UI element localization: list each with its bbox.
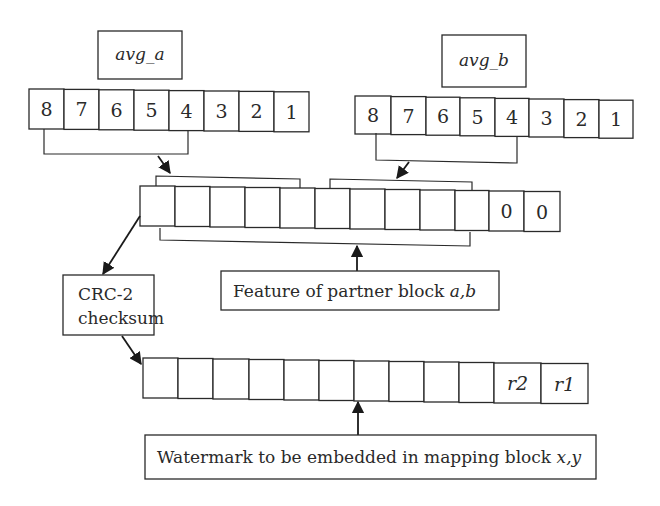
bit-cell <box>210 187 245 227</box>
bit-cell <box>420 190 455 230</box>
avg-b-box: avg_b <box>442 35 526 87</box>
feature-label-box: Feature of partner block a,b <box>221 271 499 310</box>
bit-cell <box>284 360 319 400</box>
bit-cell: 3 <box>204 91 239 131</box>
crc-line2: checksum <box>78 308 164 328</box>
bit-cell: 2 <box>239 91 274 131</box>
bit-cell-value: 7 <box>75 98 87 120</box>
bit-cell-value: 3 <box>215 100 227 122</box>
bit-cell: 4 <box>495 98 529 136</box>
arrow-crc-to-watermark <box>122 336 141 364</box>
bit-cell: 2 <box>564 100 599 138</box>
feature-label-text: Feature of partner block <box>233 281 450 301</box>
watermark-label-text: Watermark to be embedded in mapping bloc… <box>157 447 557 467</box>
crc-checksum-box: CRC-2 checksum <box>63 275 164 335</box>
bit-cell <box>175 187 210 227</box>
bit-cell: 1 <box>274 92 309 132</box>
bit-cell <box>354 361 389 401</box>
arrow-feature-to-crc <box>103 216 140 274</box>
bit-cell <box>249 360 284 400</box>
bit-cell <box>455 191 489 231</box>
avg-b-bit-row: 87654321 <box>355 96 633 138</box>
bit-cell-value: 3 <box>540 107 552 129</box>
crc-line1: CRC-2 <box>78 284 133 304</box>
arrow-b-to-feature <box>397 162 409 178</box>
bit-cell <box>424 362 459 402</box>
bit-cell <box>319 361 354 401</box>
bit-cell: 0 <box>489 191 524 231</box>
bit-cell: 6 <box>426 97 460 135</box>
bit-cell: r1 <box>541 364 588 404</box>
bit-cell-value: 6 <box>110 99 122 121</box>
bit-cell: 8 <box>355 96 391 134</box>
bit-cell-value: 8 <box>40 98 52 120</box>
bit-cell <box>459 363 494 403</box>
arrow-a-to-feature <box>158 156 170 173</box>
bit-cell-value: 5 <box>145 99 157 121</box>
bit-cell: 0 <box>524 192 560 232</box>
avg-a-bit-row: 87654321 <box>29 89 309 132</box>
avg-b-label: avg_b <box>459 50 509 70</box>
bit-cell: 5 <box>460 98 495 136</box>
bit-cell-value: 2 <box>250 100 262 122</box>
bit-cell: 7 <box>391 97 426 135</box>
bit-cell-value: 1 <box>610 108 622 130</box>
bit-cell-value: r1 <box>554 373 575 395</box>
bit-cell <box>315 189 350 229</box>
diagram-canvas: avg_a avg_b 87654321 87654321 00 Feature… <box>0 0 660 506</box>
bit-cell: 4 <box>169 91 204 131</box>
bit-cell <box>385 190 420 230</box>
avg-a-box: avg_a <box>98 31 182 79</box>
watermark-label-vars: x,y <box>557 447 582 467</box>
bit-cell-value: 4 <box>180 100 192 122</box>
bit-cell-value: 8 <box>367 104 379 126</box>
feature-bit-row: 00 <box>140 186 560 232</box>
bit-cell: 6 <box>99 90 134 130</box>
bit-cell: r2 <box>494 363 541 403</box>
bit-cell <box>143 358 178 398</box>
bit-cell-value: 1 <box>285 101 297 123</box>
bit-cell <box>245 188 280 228</box>
bracket-feature-bottom <box>160 228 470 246</box>
bracket-a-upper-bits <box>44 129 188 154</box>
watermark-label-box: Watermark to be embedded in mapping bloc… <box>145 435 596 479</box>
bit-cell-value: 0 <box>536 201 548 223</box>
bit-cell-value: 5 <box>471 106 483 128</box>
bit-cell <box>350 189 385 229</box>
bit-cell-value: 7 <box>402 105 414 127</box>
bit-cell: 3 <box>529 99 564 137</box>
watermark-bit-row: r2r1 <box>143 358 588 404</box>
bit-cell: 8 <box>29 89 64 129</box>
bit-cell-value: 0 <box>500 200 512 222</box>
svg-text:Watermark to be embedded in ma: Watermark to be embedded in mapping bloc… <box>157 447 582 467</box>
feature-label-vars: a,b <box>450 281 476 301</box>
bit-cell <box>178 359 213 399</box>
svg-text:Feature of partner block a,b: Feature of partner block a,b <box>233 281 476 301</box>
bit-cell <box>213 359 249 399</box>
bit-cell <box>389 362 424 402</box>
bit-cell-value: 6 <box>437 105 449 127</box>
avg-a-label: avg_a <box>115 44 164 64</box>
bit-cell-value: 2 <box>575 108 587 130</box>
bit-cell <box>140 186 175 226</box>
bit-cell: 5 <box>134 90 169 130</box>
bit-cell-value: 4 <box>506 106 518 128</box>
bit-cell <box>280 188 315 228</box>
bracket-b-upper-bits <box>376 133 517 163</box>
bit-cell: 7 <box>64 89 99 129</box>
bit-cell: 1 <box>599 100 633 138</box>
bit-cell-value: r2 <box>507 372 528 394</box>
